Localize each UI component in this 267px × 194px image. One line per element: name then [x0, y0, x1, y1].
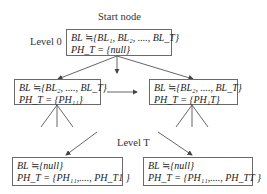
- edge-root-to-mid-right: [117, 56, 193, 79]
- leaf-left-node: BL ≒{null} PH_T = {PH₁₁,...., PH_T1 }: [12, 157, 123, 186]
- mid-right-node: BL ≒{BL₂, ...., BL_T} PH_T = {PH₁T}: [149, 79, 238, 105]
- mid-left-bl: BL ≒{BL₂, ...., BL_T}: [19, 82, 96, 94]
- level-t-label: Level T: [117, 137, 150, 148]
- edge-to-leaf-left: [66, 132, 97, 155]
- mid-left-node: BL ≒{BL₂, ...., BL_T} PH_T = {PH₁₁}: [14, 79, 101, 105]
- root-node: BL ≒{BL₁, BL₂, ...., BL_T} PH_T = {null}: [66, 29, 172, 56]
- edge-to-leaf-right: [158, 132, 192, 155]
- mid-right-ph: PH_T = {PH₁T}: [154, 94, 233, 106]
- leaf-right-ph: PH_T = {PH₁₁,...., PH_TT }: [148, 172, 248, 184]
- leaf-left-bl: BL ≒{null}: [17, 160, 118, 172]
- level-0-label: Level 0: [30, 36, 62, 47]
- start-node-label: Start node: [98, 11, 141, 22]
- root-ph: PH_T = {null}: [71, 44, 167, 56]
- leaf-left-ph: PH_T = {PH₁₁,...., PH_T1 }: [17, 172, 118, 184]
- edge-root-to-mid-left: [58, 56, 117, 79]
- mid-left-ph: PH_T = {PH₁₁}: [19, 94, 96, 106]
- root-bl: BL ≒{BL₁, BL₂, ...., BL_T}: [71, 32, 167, 44]
- mid-right-bl: BL ≒{BL₂, ...., BL_T}: [154, 82, 233, 94]
- leaf-right-node: BL ≒{null} PH_T = {PH₁₁,...., PH_TT }: [143, 157, 253, 186]
- leaf-right-bl: BL ≒{null}: [148, 160, 248, 172]
